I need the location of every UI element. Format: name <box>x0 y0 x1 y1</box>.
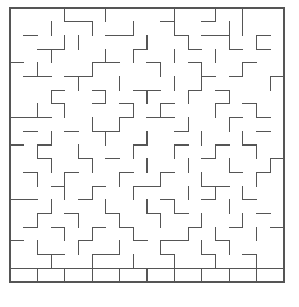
maze-background <box>0 0 299 307</box>
maze-canvas <box>0 0 299 307</box>
maze-figure <box>0 0 299 307</box>
